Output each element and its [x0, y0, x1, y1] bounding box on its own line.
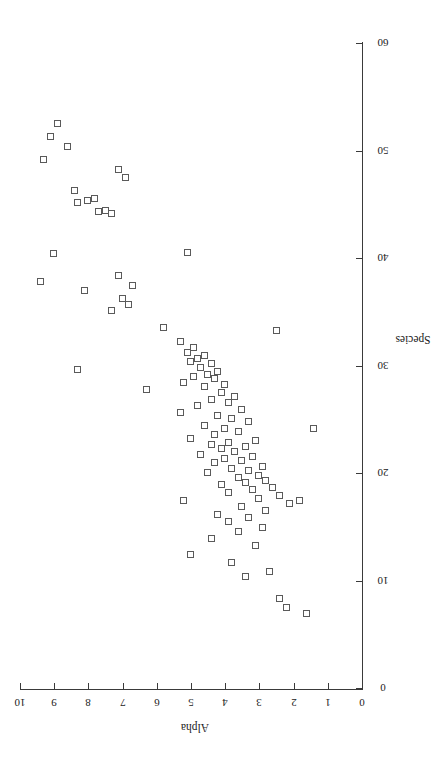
data-point-marker	[177, 338, 184, 345]
data-point-marker	[187, 551, 194, 558]
data-point-marker	[208, 441, 215, 448]
data-point-marker	[238, 406, 245, 413]
data-point-marker	[115, 272, 122, 279]
data-point-marker	[242, 573, 249, 580]
data-point-marker	[211, 431, 218, 438]
data-point-marker	[245, 467, 252, 474]
data-point-marker	[208, 535, 215, 542]
alpha-tick-label: 2	[283, 697, 305, 708]
alpha-tick	[54, 683, 55, 690]
data-point-marker	[190, 344, 197, 351]
data-point-marker	[283, 604, 290, 611]
data-point-marker	[310, 425, 317, 432]
species-tick-label: 60	[372, 37, 394, 48]
alpha-tick-label: 8	[77, 697, 99, 708]
data-point-marker	[235, 428, 242, 435]
data-point-marker	[50, 250, 57, 257]
data-point-marker	[74, 199, 81, 206]
species-tick-label: 50	[372, 145, 394, 156]
alpha-tick	[88, 683, 89, 690]
data-point-marker	[214, 511, 221, 518]
alpha-tick-label: 1	[317, 697, 339, 708]
data-point-marker	[225, 489, 232, 496]
species-tick	[356, 258, 363, 259]
species-tick-label: 20	[372, 467, 394, 478]
data-point-marker	[194, 402, 201, 409]
data-point-marker	[64, 143, 71, 150]
species-tick-label: 10	[372, 575, 394, 586]
alpha-tick	[191, 683, 192, 690]
data-point-marker	[286, 500, 293, 507]
data-point-marker	[231, 448, 238, 455]
data-point-marker	[269, 484, 276, 491]
species-axis-title: Species	[383, 334, 435, 346]
alpha-tick-label: 6	[146, 697, 168, 708]
data-point-marker	[190, 373, 197, 380]
data-point-marker	[125, 301, 132, 308]
species-tick-label: 30	[372, 360, 394, 371]
alpha-tick	[259, 683, 260, 690]
data-point-marker	[201, 422, 208, 429]
data-point-marker	[214, 412, 221, 419]
data-point-marker	[180, 379, 187, 386]
alpha-tick	[328, 683, 329, 690]
data-point-marker	[218, 389, 225, 396]
alpha-tick	[362, 683, 363, 690]
data-point-marker	[231, 393, 238, 400]
data-point-marker	[238, 503, 245, 510]
alpha-tick-label: 7	[112, 697, 134, 708]
data-point-marker	[225, 518, 232, 525]
data-point-marker	[252, 437, 259, 444]
data-point-marker	[228, 465, 235, 472]
species-tick	[356, 581, 363, 582]
species-tick-label: 0	[372, 682, 394, 693]
data-point-marker	[91, 195, 98, 202]
data-point-marker	[235, 528, 242, 535]
species-tick	[356, 151, 363, 152]
data-point-marker	[129, 282, 136, 289]
alpha-tick-label: 5	[180, 697, 202, 708]
data-point-marker	[296, 497, 303, 504]
data-point-marker	[225, 439, 232, 446]
data-point-marker	[187, 358, 194, 365]
data-point-marker	[221, 455, 228, 462]
species-tick-label: 40	[372, 252, 394, 263]
alpha-tick-label: 4	[214, 697, 236, 708]
alpha-tick-label: 0	[351, 697, 373, 708]
data-point-marker	[221, 425, 228, 432]
data-point-marker	[214, 368, 221, 375]
data-point-marker	[180, 497, 187, 504]
species-tick	[356, 43, 363, 44]
data-point-marker	[201, 352, 208, 359]
data-point-marker	[211, 459, 218, 466]
data-point-marker	[262, 507, 269, 514]
data-point-marker	[40, 156, 47, 163]
data-point-marker	[276, 595, 283, 602]
data-point-marker	[201, 383, 208, 390]
data-point-marker	[208, 396, 215, 403]
data-point-marker	[218, 445, 225, 452]
alpha-tick	[157, 683, 158, 690]
data-point-marker	[266, 568, 273, 575]
data-point-marker	[184, 249, 191, 256]
data-point-marker	[303, 610, 310, 617]
data-point-marker	[143, 386, 150, 393]
data-point-marker	[221, 381, 228, 388]
data-point-marker	[245, 418, 252, 425]
data-point-marker	[242, 479, 249, 486]
alpha-tick	[20, 683, 21, 690]
data-point-marker	[194, 355, 201, 362]
data-point-marker	[273, 327, 280, 334]
alpha-axis-title: Alpha	[150, 722, 240, 734]
data-point-marker	[208, 360, 215, 367]
alpha-tick-label: 10	[9, 697, 31, 708]
data-point-marker	[259, 524, 266, 531]
alpha-tick	[225, 683, 226, 690]
data-point-marker	[122, 174, 129, 181]
data-point-marker	[81, 287, 88, 294]
data-point-marker	[262, 477, 269, 484]
data-point-marker	[37, 278, 44, 285]
data-point-marker	[204, 469, 211, 476]
data-point-marker	[238, 457, 245, 464]
